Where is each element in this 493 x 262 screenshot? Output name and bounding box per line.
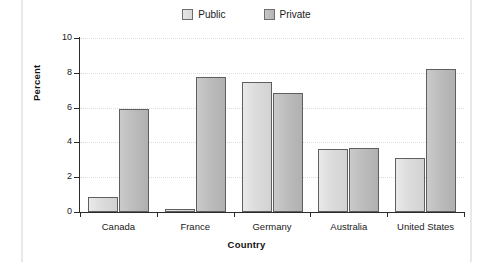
x-axis-line bbox=[79, 212, 465, 213]
x-tick-mark bbox=[157, 212, 158, 217]
plot-area bbox=[80, 38, 464, 212]
figure-border-right bbox=[470, 0, 472, 262]
legend-label: Private bbox=[280, 9, 311, 20]
y-tick-label: 6 bbox=[48, 103, 72, 112]
bar-chart-figure: PublicPrivate Percent 0246810 CanadaFran… bbox=[0, 0, 493, 262]
x-tick-mark bbox=[310, 212, 311, 217]
x-tick-mark bbox=[234, 212, 235, 217]
bar-canada-private bbox=[119, 109, 149, 212]
y-tick-mark bbox=[74, 38, 79, 39]
x-tick-label-germany: Germany bbox=[234, 221, 311, 232]
figure-border-left bbox=[21, 0, 23, 262]
legend-label: Public bbox=[198, 9, 225, 20]
chart-legend: PublicPrivate bbox=[0, 9, 493, 20]
x-tick-label-australia: Australia bbox=[310, 221, 387, 232]
legend-item-private[interactable]: Private bbox=[264, 9, 311, 20]
x-tick-label-united-states: United States bbox=[387, 221, 464, 232]
private-swatch bbox=[264, 9, 275, 20]
x-tick-mark bbox=[387, 212, 388, 217]
y-axis-title: Percent bbox=[31, 65, 42, 101]
y-tick-label: 4 bbox=[48, 137, 72, 146]
gridline bbox=[80, 38, 464, 40]
x-axis-title: Country bbox=[0, 239, 493, 250]
y-tick-mark bbox=[74, 108, 79, 109]
legend-item-public[interactable]: Public bbox=[182, 9, 225, 20]
y-tick-label: 10 bbox=[48, 33, 72, 42]
gridline bbox=[80, 73, 464, 75]
x-tick-label-france: France bbox=[157, 221, 234, 232]
bar-australia-public bbox=[318, 149, 348, 212]
bar-united-states-public bbox=[395, 158, 425, 212]
bar-france-private bbox=[196, 77, 226, 212]
y-tick-label: 2 bbox=[48, 172, 72, 181]
bar-germany-public bbox=[242, 82, 272, 213]
public-swatch bbox=[182, 9, 193, 20]
bar-australia-private bbox=[349, 148, 379, 212]
bar-united-states-private bbox=[426, 69, 456, 212]
bar-canada-public bbox=[88, 197, 118, 212]
y-tick-label: 0 bbox=[48, 207, 72, 216]
x-tick-mark bbox=[80, 212, 81, 217]
x-tick-label-canada: Canada bbox=[80, 221, 157, 232]
y-tick-mark bbox=[74, 142, 79, 143]
bar-germany-private bbox=[273, 93, 303, 212]
bar-france-public bbox=[165, 209, 195, 212]
y-tick-mark bbox=[74, 73, 79, 74]
x-tick-mark bbox=[464, 212, 465, 217]
y-tick-mark bbox=[74, 212, 79, 213]
y-tick-label: 8 bbox=[48, 68, 72, 77]
y-tick-mark bbox=[74, 177, 79, 178]
